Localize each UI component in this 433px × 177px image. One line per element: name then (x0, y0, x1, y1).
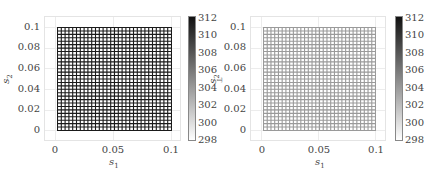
right-ytick: 0.02 (212, 104, 246, 114)
left-xtick: 0.05 (98, 145, 128, 155)
right-xtick: 0 (247, 145, 277, 155)
left-ytick: 0.1 (6, 22, 40, 32)
right-colorbar (395, 16, 403, 141)
right-ytick: 0.04 (212, 84, 246, 94)
right-ytick: 0.06 (212, 63, 246, 73)
right-mesh (263, 27, 376, 131)
left-colorbar (188, 16, 196, 141)
right-ytick: 0.1 (212, 22, 246, 32)
right-cbar-tick: 306 (405, 65, 424, 75)
left-ytick: 0.04 (6, 84, 40, 94)
right-xlabel: s1 (315, 156, 325, 170)
left-plot-panel: 0.1 0.08 0.06 0.04 0.02 0 0 0.05 0.1 s1 … (0, 0, 220, 177)
left-xtick: 0 (40, 145, 70, 155)
right-ylabel: s2 (207, 74, 221, 84)
left-ylabel: s2 (0, 74, 14, 84)
right-cbar-tick: 310 (405, 30, 424, 40)
left-ytick: 0 (6, 125, 40, 135)
left-xtick: 0.1 (156, 145, 186, 155)
left-ytick: 0.06 (6, 63, 40, 73)
right-cbar-tick: 312 (405, 13, 424, 23)
left-axes (44, 16, 181, 141)
right-cbar-tick: 302 (405, 100, 424, 110)
right-cbar-tick: 308 (405, 48, 424, 58)
left-ytick: 0.02 (6, 104, 40, 114)
right-cbar-tick: 300 (405, 118, 424, 128)
right-ytick: 0.08 (212, 42, 246, 52)
right-plot-panel: 0.1 0.08 0.06 0.04 0.02 0 0 0.05 0.1 s1 … (215, 0, 433, 177)
right-axes (250, 16, 386, 141)
left-ytick: 0.08 (6, 42, 40, 52)
right-cbar-tick: 304 (405, 83, 424, 93)
right-ytick: 0 (212, 125, 246, 135)
left-xlabel: s1 (109, 156, 119, 170)
left-mesh (57, 27, 172, 131)
right-xtick: 0.05 (304, 145, 334, 155)
right-xtick: 0.1 (361, 145, 391, 155)
right-cbar-tick: 298 (405, 135, 424, 145)
